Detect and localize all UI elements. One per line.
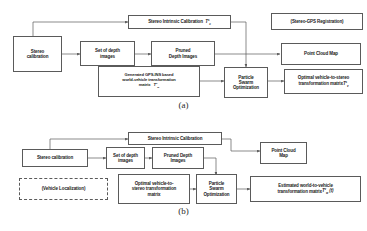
node-set-of-depth-images-a: Set of depth images <box>80 41 135 66</box>
node-vehicle-localization: (Vehicle Localization) <box>19 178 108 200</box>
node-label: (Stereo-GPS Registration) <box>290 19 343 24</box>
node-generated-gps-ins-transform: Generated GPS-INS based world-vehicle tr… <box>98 66 200 97</box>
diagram-panel-b: Stereo Intrinsic Calibration Stereo cali… <box>0 118 367 231</box>
node-stereo-gps-registration: (Stereo-GPS Registration) <box>271 13 363 30</box>
transform-argument: (t) <box>329 188 333 193</box>
transform-symbol: Tsv <box>343 81 349 86</box>
node-label: Stereo calibration <box>27 49 49 59</box>
node-label: Pruned Depth Images <box>164 153 192 163</box>
node-label: Generated GPS-INS based world-vehicle tr… <box>122 72 175 87</box>
node-particle-swarm-optimization-b: Particle Swarm Optimization <box>196 174 237 204</box>
node-label: Optimal vehicle-to- stereo transformatio… <box>132 181 176 196</box>
node-set-of-depth-images-b: Set of depth images <box>106 147 145 169</box>
transform-symbol: Tvw (t) <box>322 188 334 193</box>
node-stereo-intrinsic-calibration-b: Stereo Intrinsic Calibration <box>128 132 222 145</box>
node-stereo-intrinsic-calibration-a: Stereo Intrinsic Calibration Tsc <box>128 15 231 29</box>
node-optimal-vehicle-to-stereo-transform-a: Optimal vehicle-to-stereo transformation… <box>284 69 363 94</box>
transform-symbol: Tvw <box>154 82 160 87</box>
transform-symbol: Tsc <box>205 19 211 24</box>
node-particle-swarm-optimization-a: Particle Swarm Optimization <box>224 67 268 98</box>
node-stereo-calibration-b: Stereo calibration <box>22 149 88 167</box>
node-optimal-vehicle-to-stereo-transform-b: Optimal vehicle-to- stereo transformatio… <box>118 174 190 204</box>
node-point-cloud-map-b: Point Cloud Map <box>260 142 307 164</box>
panel-caption-a: (a) <box>0 100 367 110</box>
node-estimated-world-to-vehicle-transform: Estimated world-to-vehicle transformatio… <box>250 176 361 202</box>
node-label: Set of depth images <box>113 153 138 163</box>
node-pruned-depth-images-b: Pruned Depth Images <box>152 147 204 169</box>
node-pruned-depth-images-a: Pruned Depth Images <box>151 41 215 66</box>
diagram-panel-a: Stereo Intrinsic Calibration Tsc (Stereo… <box>0 0 367 118</box>
node-label: Stereo calibration <box>37 155 73 160</box>
node-label: Optimal vehicle-to-stereo transformation… <box>298 75 350 86</box>
node-stereo-calibration-a: Stereo calibration <box>13 36 62 72</box>
node-label: Point Cloud Map <box>304 51 338 56</box>
node-label: Particle Swarm Optimization <box>233 75 259 90</box>
node-label: Stereo Intrinsic Calibration <box>148 19 203 24</box>
node-label: Stereo Intrinsic Calibration <box>148 136 203 141</box>
node-label: Pruned Depth Images <box>169 48 197 58</box>
panel-caption-b: (b) <box>0 206 367 216</box>
node-point-cloud-map-a: Point Cloud Map <box>281 43 361 65</box>
node-label: Particle Swarm Optimization <box>203 181 229 196</box>
figure-root: Stereo Intrinsic Calibration Tsc (Stereo… <box>0 0 367 231</box>
node-label: Point Cloud Map <box>271 148 295 158</box>
node-label: (Vehicle Localization) <box>42 186 86 191</box>
node-label: Set of depth images <box>95 48 120 58</box>
